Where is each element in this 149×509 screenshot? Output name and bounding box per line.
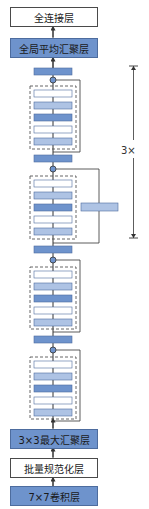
maxpool-layer: 3×3最大汇聚层 <box>10 429 98 449</box>
residual-block-4 <box>30 336 80 421</box>
conv7x7-layer: 7×7卷积层 <box>10 486 98 506</box>
repeat-label: 3× <box>120 145 137 156</box>
residual-block-1 <box>30 68 80 152</box>
residual-block-2 <box>30 155 118 243</box>
global-avg-pool-layer: 全局平均汇聚层 <box>10 38 98 58</box>
residual-block-3 <box>30 246 80 332</box>
batch-norm-layer: 批量规范化层 <box>10 458 98 478</box>
fully-connected-layer: 全连接层 <box>10 7 98 27</box>
